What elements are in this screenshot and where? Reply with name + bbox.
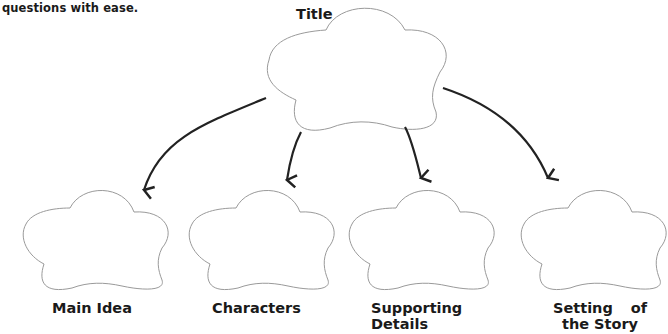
supporting-details-line1: Supporting <box>371 300 462 316</box>
organizer-diagram <box>0 0 668 334</box>
main-idea-label: Main Idea <box>52 300 132 316</box>
characters-label: Characters <box>212 300 301 316</box>
supporting-details-cloud <box>349 190 494 289</box>
title-label: Title <box>296 6 333 22</box>
setting-line1-word1: Setting <box>553 300 613 316</box>
setting-line1-word2: of <box>631 300 647 316</box>
supporting-details-label: Supporting Details <box>371 300 462 332</box>
arrow-to-characters <box>287 132 301 180</box>
supporting-details-line2: Details <box>371 316 462 332</box>
arrow-to-main-idea <box>144 98 266 190</box>
arrow-to-setting <box>443 88 548 178</box>
arrow-to-supporting-details <box>405 127 421 178</box>
setting-cloud <box>521 190 666 289</box>
setting-label: Setting of the Story <box>553 300 647 332</box>
title-cloud <box>267 8 446 130</box>
main-idea-cloud <box>23 190 168 289</box>
characters-cloud <box>189 190 334 289</box>
setting-line2: the Story <box>553 316 647 332</box>
